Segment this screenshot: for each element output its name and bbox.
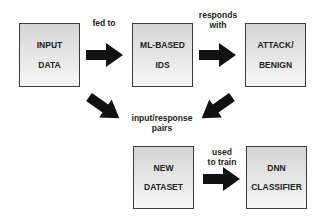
input-data-node: INPUT DATA bbox=[19, 23, 80, 87]
edge-label-line: used bbox=[200, 147, 244, 157]
node-label: NEW bbox=[154, 164, 174, 173]
node-label: ML-BASED bbox=[140, 41, 185, 50]
node-label: ATTACK/ bbox=[257, 41, 293, 50]
attack-benign-node: ATTACK/ BENIGN bbox=[245, 23, 306, 87]
edge-label-line: to train bbox=[200, 157, 244, 167]
new-dataset-node: NEW DATASET bbox=[133, 146, 194, 209]
arrow-right-icon bbox=[199, 43, 236, 67]
arrow-right-icon bbox=[86, 43, 123, 67]
edge-label-line: pairs bbox=[122, 123, 202, 133]
arrow-right-icon bbox=[203, 167, 240, 191]
node-label: IDS bbox=[155, 61, 169, 70]
edge-label-line: with bbox=[194, 20, 242, 30]
edge-label-fed-to: fed to bbox=[86, 18, 122, 28]
edge-label-line: responds bbox=[194, 10, 242, 20]
node-label: BENIGN bbox=[259, 61, 292, 70]
node-label: CLASSIFIER bbox=[251, 183, 302, 192]
edge-label-line: input/response bbox=[122, 113, 202, 123]
node-label: DATA bbox=[38, 61, 60, 70]
node-label: DATASET bbox=[144, 183, 183, 192]
edge-label-input-response-pairs: input/response pairs bbox=[122, 113, 202, 133]
node-label: INPUT bbox=[37, 41, 63, 50]
ml-ids-node: ML-BASED IDS bbox=[132, 23, 193, 87]
arrow-diagonal-down-right-icon bbox=[83, 88, 126, 127]
dnn-classifier-node: DNN CLASSIFIER bbox=[246, 146, 307, 209]
edge-label-used-to-train: used to train bbox=[200, 147, 244, 167]
node-label: DNN bbox=[267, 164, 285, 173]
edge-label-responds-with: responds with bbox=[194, 10, 242, 30]
